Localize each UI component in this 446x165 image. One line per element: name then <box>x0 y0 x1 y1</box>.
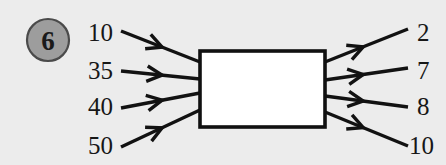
diagram-canvas: 6 <box>0 0 446 165</box>
output-label-2: 7 <box>417 57 430 84</box>
badge-number-label: 6 <box>41 26 55 56</box>
input-label-2: 35 <box>88 57 113 84</box>
process-box <box>200 51 325 127</box>
output-label-4: 10 <box>409 132 434 159</box>
question-number-badge: 6 <box>27 19 69 61</box>
input-label-3: 40 <box>88 93 113 120</box>
input-label-1: 10 <box>88 19 113 46</box>
output-label-1: 2 <box>417 19 430 46</box>
input-label-4: 50 <box>88 132 113 159</box>
output-label-3: 8 <box>417 93 430 120</box>
flow-diagram-figure: 6 <box>0 0 446 165</box>
